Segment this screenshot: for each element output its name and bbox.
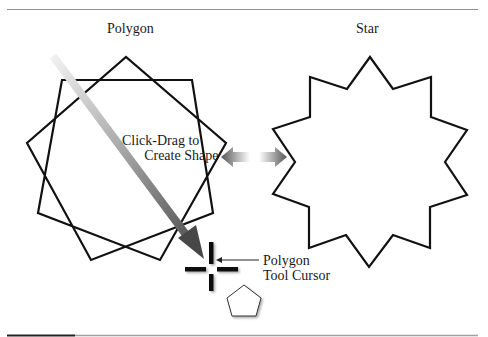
polygon-title: Polygon: [107, 21, 154, 36]
cursor-pointer-arrow: [216, 257, 259, 263]
cursor-annotation-line2: Tool Cursor: [263, 268, 330, 283]
double-arrow-icon: [221, 147, 287, 167]
cursor-annotation-line1: Polygon: [263, 253, 330, 268]
pentagon-icon: [227, 285, 261, 316]
diagram-canvas: Polygon Star Click-Drag to Create Shape …: [0, 0, 488, 337]
cursor-annotation: Polygon Tool Cursor: [263, 253, 330, 283]
drag-annotation-line1: Click-Drag to: [122, 133, 199, 148]
star-title: Star: [356, 21, 379, 36]
star-shape: [273, 57, 467, 267]
drag-annotation: Click-Drag to Create Shape: [122, 133, 218, 163]
drag-annotation-line2: Create Shape: [122, 148, 218, 163]
diagram-svg: [0, 0, 488, 337]
